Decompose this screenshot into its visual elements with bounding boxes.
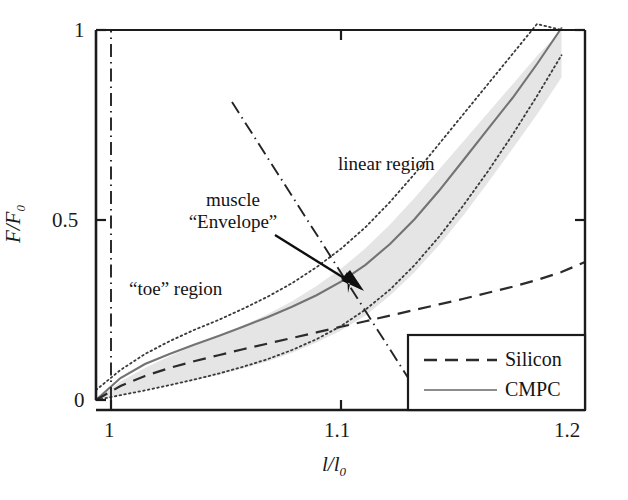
y-axis-title-wrapper: F/F0 [10,196,50,256]
xtick-label-left: 1 [104,418,115,443]
chart-canvas [0,0,628,500]
ytick-label-mid: 0.5 [52,208,78,233]
annotation-muscle-line2: “Envelope” [165,211,301,233]
xtick-label-mid: 1.1 [324,418,350,443]
figure-container: 1 0.5 0 1 1.1 1.2 F/F0 l/l0 linear regio… [0,0,628,500]
annotation-muscle-envelope: muscle “Envelope” [165,189,301,234]
y-axis-title-subscript: 0 [13,205,28,212]
x-axis-title-subscript: 0 [340,464,347,479]
ytick-label-top: 1 [74,18,85,43]
y-axis-title: F/F0 [1,205,29,243]
annotation-linear-region: linear region [338,153,435,175]
x-axis-title-text: l/l [322,452,340,476]
ytick-label-bottom: 0 [74,388,85,413]
legend-label-cmpc: CMPC [505,378,561,401]
x-axis-title: l/l0 [322,452,346,480]
annotation-muscle-line1: muscle [165,189,301,211]
legend-label-silicon: Silicon [505,348,562,371]
annotation-toe-region: “toe” region [129,278,222,300]
xtick-label-right: 1.2 [554,418,580,443]
y-axis-title-text: F/F [1,212,25,244]
